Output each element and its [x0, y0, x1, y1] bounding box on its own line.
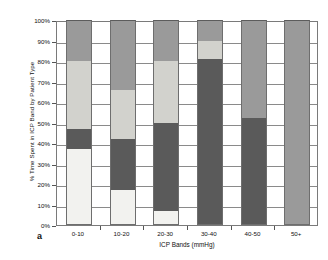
bar-segment[interactable] — [153, 123, 179, 211]
y-axis-tick-label: 60% — [16, 99, 50, 106]
panel-label: a — [37, 231, 42, 241]
bar-segment[interactable] — [66, 149, 92, 225]
bar-segment[interactable] — [110, 20, 136, 90]
gridline — [57, 207, 317, 208]
y-axis-tick-label: 10% — [16, 202, 50, 209]
bar-group[interactable] — [110, 20, 136, 225]
bar-segment[interactable] — [197, 41, 223, 59]
gridline — [57, 186, 317, 187]
bar-group[interactable] — [197, 20, 223, 225]
bar-segment[interactable] — [241, 20, 267, 118]
gridline — [57, 63, 317, 64]
x-axis-title: ICP Bands (mmHg) — [56, 241, 318, 248]
bar-segment[interactable] — [110, 139, 136, 190]
gridline — [57, 145, 317, 146]
bar-segment[interactable] — [110, 190, 136, 225]
y-axis-tick-label: 40% — [16, 140, 50, 147]
y-axis-tick-label: 100% — [16, 17, 50, 24]
y-axis-tick-label: 30% — [16, 161, 50, 168]
bar-group[interactable] — [241, 20, 267, 225]
gridline — [57, 104, 317, 105]
bar-group[interactable] — [284, 20, 310, 225]
bar-segment[interactable] — [153, 211, 179, 225]
y-axis-tick-label: 50% — [16, 120, 50, 127]
y-axis-tick-label: 20% — [16, 181, 50, 188]
chart-figure: % Time Spent in ICP Band by Patient Type… — [0, 0, 328, 260]
bar-segment[interactable] — [66, 20, 92, 61]
y-axis-tick-label: 80% — [16, 58, 50, 65]
bar-segment[interactable] — [197, 20, 223, 41]
x-axis-tick-label: 50+ — [266, 230, 326, 237]
gridline — [57, 125, 317, 126]
y-axis-tick-label: 90% — [16, 38, 50, 45]
bar-segment[interactable] — [110, 90, 136, 139]
bar-segment[interactable] — [197, 59, 223, 225]
y-axis-tick-label: 70% — [16, 79, 50, 86]
bar-segment[interactable] — [66, 129, 92, 150]
gridline — [57, 166, 317, 167]
y-axis-tick-label: 0% — [16, 222, 50, 229]
bar-segment[interactable] — [66, 61, 92, 129]
gridline — [57, 43, 317, 44]
bar-group[interactable] — [66, 20, 92, 225]
gridline — [57, 84, 317, 85]
plot-area — [56, 21, 318, 226]
bar-segment[interactable] — [284, 20, 310, 225]
bar-segment[interactable] — [153, 61, 179, 123]
bar-segment[interactable] — [241, 118, 267, 225]
bar-segment[interactable] — [153, 20, 179, 61]
bar-group[interactable] — [153, 20, 179, 225]
y-axis-tick-mark — [52, 226, 56, 227]
